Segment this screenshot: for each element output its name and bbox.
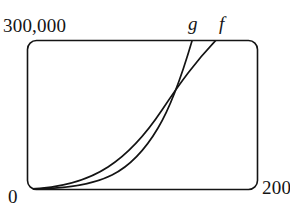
curve-label-g: g xyxy=(188,14,198,33)
y-axis-max-label: 300,000 xyxy=(3,16,66,35)
curve-label-f: f xyxy=(219,14,224,33)
plot-frame xyxy=(28,41,258,190)
origin-label: 0 xyxy=(8,187,18,206)
curve-f xyxy=(28,34,222,189)
x-axis-max-label: 200 xyxy=(262,178,290,197)
